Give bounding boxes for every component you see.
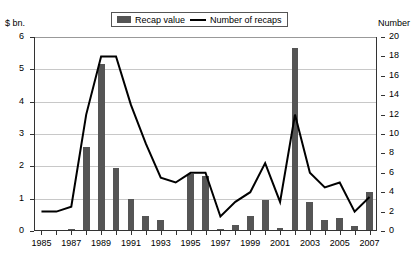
x-tick-1999	[250, 231, 251, 235]
x-tick-2001	[280, 231, 281, 235]
x-tick-1991	[131, 231, 132, 235]
x-tick-1986	[56, 231, 57, 235]
x-tick-1988	[86, 231, 87, 235]
x-tick-1994	[176, 231, 177, 235]
x-tick-1998	[235, 231, 236, 235]
x-tick-1993	[161, 231, 162, 235]
right-tick-label-8: 8	[389, 148, 394, 157]
left-tick-label-5: 5	[8, 64, 24, 73]
x-label-1987: 1987	[61, 238, 81, 248]
x-label-1991: 1991	[121, 238, 141, 248]
x-tick-1995	[191, 231, 192, 235]
line-swatch-icon	[190, 19, 206, 21]
right-tick-label-14: 14	[389, 90, 399, 99]
right-tick-mark-4	[381, 192, 385, 193]
legend-item-recap-value: Recap value	[117, 15, 185, 25]
right-tick-label-0: 0	[389, 226, 394, 235]
x-tick-2003	[310, 231, 311, 235]
right-tick-label-20: 20	[389, 32, 399, 41]
right-tick-label-4: 4	[389, 187, 394, 196]
left-axis-ticks: 0123456	[8, 0, 30, 258]
right-tick-label-18: 18	[389, 51, 399, 60]
right-tick-mark-20	[381, 37, 385, 38]
right-tick-label-10: 10	[389, 129, 399, 138]
legend-item-number-of-recaps: Number of recaps	[190, 15, 282, 25]
x-label-2005: 2005	[330, 238, 350, 248]
right-tick-mark-0	[381, 231, 385, 232]
x-axis: 1985198719891991199319951997199920012003…	[34, 231, 377, 258]
left-tick-label-0: 0	[8, 226, 24, 235]
left-tick-label-1: 1	[8, 194, 24, 203]
x-tick-2005	[340, 231, 341, 235]
x-tick-1989	[101, 231, 102, 235]
x-tick-2002	[295, 231, 296, 235]
right-tick-label-16: 16	[389, 71, 399, 80]
x-label-1985: 1985	[31, 238, 51, 248]
recap-value-chart: $ bn. Number Recap value Number of recap…	[0, 0, 415, 258]
right-tick-mark-6	[381, 173, 385, 174]
left-tick-label-4: 4	[8, 97, 24, 106]
right-tick-mark-8	[381, 153, 385, 154]
right-tick-label-2: 2	[389, 207, 394, 216]
x-tick-2006	[355, 231, 356, 235]
plot-frame	[34, 37, 377, 231]
x-label-1989: 1989	[91, 238, 111, 248]
x-label-1997: 1997	[210, 238, 230, 248]
bar-swatch-icon	[117, 16, 131, 23]
x-tick-1985	[41, 231, 42, 235]
x-label-1995: 1995	[181, 238, 201, 248]
x-tick-1996	[206, 231, 207, 235]
x-label-2001: 2001	[270, 238, 290, 248]
right-tick-mark-16	[381, 76, 385, 77]
x-label-2003: 2003	[300, 238, 320, 248]
right-tick-label-12: 12	[389, 110, 399, 119]
x-tick-2000	[265, 231, 266, 235]
legend-label-recap-value: Recap value	[135, 15, 185, 25]
left-tick-label-6: 6	[8, 32, 24, 41]
right-tick-mark-2	[381, 212, 385, 213]
x-tick-2007	[370, 231, 371, 235]
x-tick-1990	[116, 231, 117, 235]
x-tick-1987	[71, 231, 72, 235]
plot-area	[34, 37, 377, 231]
x-tick-2004	[325, 231, 326, 235]
right-axis-ticks: 02468101214161820	[381, 0, 413, 258]
left-tick-label-3: 3	[8, 129, 24, 138]
x-label-2007: 2007	[360, 238, 380, 248]
x-label-1993: 1993	[151, 238, 171, 248]
x-tick-1997	[220, 231, 221, 235]
x-label-1999: 1999	[240, 238, 260, 248]
right-tick-mark-10	[381, 134, 385, 135]
x-tick-1992	[146, 231, 147, 235]
left-tick-label-2: 2	[8, 161, 24, 170]
right-tick-label-6: 6	[389, 168, 394, 177]
right-tick-mark-14	[381, 95, 385, 96]
legend-label-number-of-recaps: Number of recaps	[210, 15, 282, 25]
right-tick-mark-12	[381, 115, 385, 116]
chart-legend: Recap value Number of recaps	[111, 12, 288, 27]
right-tick-mark-18	[381, 56, 385, 57]
